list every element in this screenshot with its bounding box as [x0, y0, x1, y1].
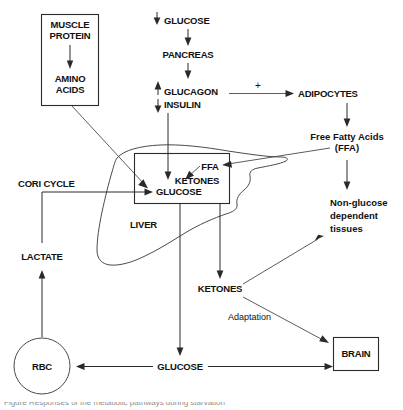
arrow-amino-acids-to-liver-glucose — [72, 106, 148, 189]
brain-label: BRAIN — [341, 348, 370, 359]
arrow-hormones-to-liver-ketones — [165, 113, 172, 180]
adipocytes-label: ADIPOCYTES — [298, 88, 358, 99]
liver-ketones-label: KETONES — [175, 175, 219, 186]
arrow-ffa-systemic-to-liver-ffa — [222, 148, 330, 168]
free-fatty-acids-label-line1: Free Fatty Acids — [310, 131, 384, 142]
glucagon-label: GLUCAGON — [164, 86, 218, 97]
lactate-label: LACTATE — [21, 251, 63, 262]
arrow-liver-glucose-to-blood-glucose — [177, 204, 184, 356]
arrow-pancreas-to-hormones — [185, 63, 192, 79]
figure-caption-strip: Figure Responses of the metabolic pathwa… — [0, 402, 403, 410]
plus-sign-label: + — [255, 80, 261, 91]
glucagon-increase-arrow-icon — [155, 81, 162, 95]
glucose-top-label: GLUCOSE — [164, 15, 210, 26]
nonglucose-tissues-label-line1: Non-glucose — [330, 197, 388, 208]
adaptation-label: Adaptation — [228, 312, 271, 322]
muscle-protein-label-line1: MUSCLE — [51, 19, 90, 30]
rbc-label: RBC — [32, 361, 52, 372]
insulin-label: INSULIN — [164, 99, 201, 110]
figure-caption-text: Figure Responses of the metabolic pathwa… — [4, 402, 225, 407]
nonglucose-tissues-label-line2: dependent — [330, 210, 379, 221]
arrow-ffa-to-nonglucose-tissues — [344, 160, 351, 190]
amino-acids-label-line2: ACIDS — [56, 84, 85, 95]
arrow-cori-cycle-to-liver-glucose — [42, 189, 153, 196]
arrow-glucose-to-pancreas — [185, 29, 192, 46]
arrow-adipocytes-to-ffa — [344, 103, 351, 127]
liver-outline — [97, 145, 287, 265]
arrow-ketones-to-nonglucose-tissues — [243, 235, 324, 284]
arrow-hormones-to-adipocytes — [229, 90, 294, 97]
starvation-metabolism-diagram: MUSCLE PROTEIN AMINO ACIDS GLUCOSE PANCR… — [0, 0, 403, 410]
arrow-blood-glucose-to-rbc — [76, 363, 153, 370]
blood-ketones-label: KETONES — [198, 283, 242, 294]
muscle-protein-label-line2: PROTEIN — [50, 30, 91, 41]
liver-ffa-label: FFA — [201, 161, 219, 172]
amino-acids-label-line1: AMINO — [55, 73, 86, 84]
free-fatty-acids-label-line2: (FFA) — [335, 142, 359, 153]
arrow-rbc-to-lactate — [39, 270, 46, 337]
arrow-muscle-protein-to-amino-acids — [67, 45, 73, 69]
insulin-decrease-arrow-icon — [155, 99, 162, 113]
diagram-page: MUSCLE PROTEIN AMINO ACIDS GLUCOSE PANCR… — [0, 0, 403, 410]
liver-label: LIVER — [130, 219, 157, 230]
arrow-blood-glucose-to-brain — [208, 363, 333, 370]
blood-glucose-label: GLUCOSE — [157, 361, 203, 372]
pancreas-label: PANCREAS — [162, 49, 213, 60]
glucose-decrease-arrow-icon — [154, 12, 161, 25]
cori-cycle-label: CORI CYCLE — [18, 178, 75, 189]
nonglucose-tissues-label-line3: tissues — [330, 223, 363, 234]
liver-glucose-label: GLUCOSE — [156, 186, 202, 197]
